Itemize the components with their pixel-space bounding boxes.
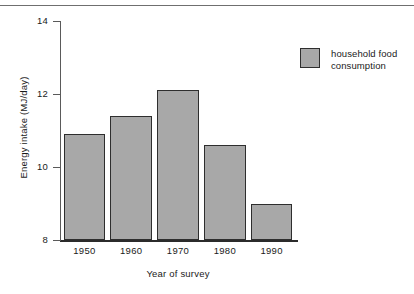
x-axis-label-1980: 1980 <box>200 246 250 256</box>
x-axis-label-1990: 1990 <box>247 246 297 256</box>
legend-swatch-household-food-consumption <box>300 48 320 68</box>
y-axis-title: Energy intake (MJ/day) <box>18 68 29 188</box>
bar-1980 <box>204 145 246 240</box>
x-axis-title: Year of survey <box>61 268 295 279</box>
y-axis-label-8: 8 <box>8 235 48 245</box>
y-axis-label-14: 14 <box>8 16 48 26</box>
x-axis-line <box>60 240 298 242</box>
legend-label-household-food-consumption: household food consumption <box>331 48 414 71</box>
chart-figure: 14 12 10 8 1950 1960 1970 1980 1990 Year… <box>0 0 414 294</box>
chart-legend: household food consumption <box>300 48 414 71</box>
bar-1950 <box>64 134 106 240</box>
x-axis-label-1970: 1970 <box>153 246 203 256</box>
x-axis-label-1950: 1950 <box>59 246 109 256</box>
bar-1990 <box>251 204 293 241</box>
y-axis-tick-14 <box>53 21 61 22</box>
x-axis-label-1960: 1960 <box>106 246 156 256</box>
bar-1970 <box>157 90 199 240</box>
y-axis-tick-8 <box>53 240 61 241</box>
y-axis-tick-12 <box>53 94 61 95</box>
plot-area <box>61 21 295 240</box>
top-divider-rule <box>0 5 414 6</box>
bar-1960 <box>110 116 152 240</box>
y-axis-tick-10 <box>53 167 61 168</box>
